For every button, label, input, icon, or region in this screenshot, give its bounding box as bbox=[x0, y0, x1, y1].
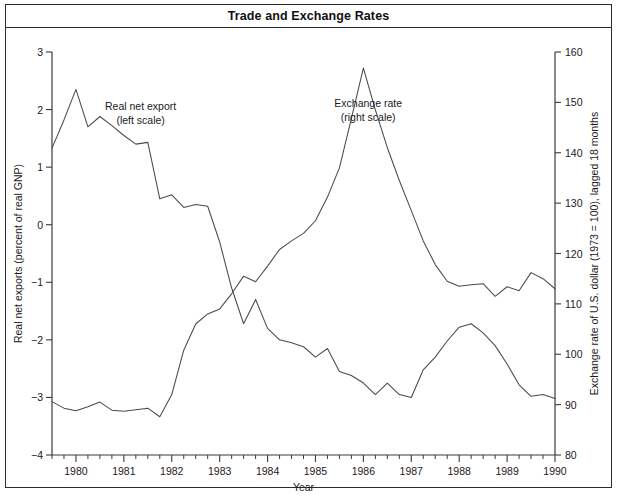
x-tick-label: 1983 bbox=[208, 465, 232, 477]
annotation-real-net-export-line1: Real net export bbox=[105, 100, 176, 112]
x-tick-label: 1982 bbox=[160, 465, 184, 477]
y-tick-label-left: −1 bbox=[31, 276, 43, 288]
x-tick-label: 1990 bbox=[543, 465, 567, 477]
y-tick-label-right: 100 bbox=[565, 348, 583, 360]
x-tick-label: 1986 bbox=[352, 465, 376, 477]
x-tick-label: 1980 bbox=[64, 465, 88, 477]
y-tick-label-left: 0 bbox=[37, 219, 43, 231]
y-axis-title-right: Exchange rate of U.S. dollar (1973 = 100… bbox=[588, 112, 600, 395]
series-line-real-net-export bbox=[52, 89, 555, 398]
figure-container: Trade and Exchange Rates 3210−1−2−3−4160… bbox=[0, 0, 617, 496]
annotation-real-net-export-line2: (left scale) bbox=[116, 114, 164, 126]
y-tick-label-right: 130 bbox=[565, 197, 583, 209]
y-axis-title-left: Real net exports (percent of real GNP) bbox=[12, 164, 24, 343]
y-tick-label-right: 120 bbox=[565, 248, 583, 260]
y-tick-label-right: 160 bbox=[565, 46, 583, 58]
x-tick-label: 1989 bbox=[495, 465, 519, 477]
labels-group: 3210−1−2−3−41601501401301201101009080198… bbox=[12, 46, 600, 493]
x-tick-label: 1985 bbox=[304, 465, 328, 477]
annotation-exchange-rate-line2: (right scale) bbox=[341, 111, 396, 123]
y-tick-label-left: −4 bbox=[31, 449, 43, 461]
annotation-exchange-rate-line1: Exchange rate bbox=[334, 97, 402, 109]
y-tick-label-left: 1 bbox=[37, 161, 43, 173]
y-tick-label-right: 140 bbox=[565, 147, 583, 159]
y-tick-label-left: −2 bbox=[31, 334, 43, 346]
chart-canvas: 3210−1−2−3−41601501401301201101009080198… bbox=[0, 0, 617, 496]
y-tick-label-right: 90 bbox=[565, 399, 577, 411]
y-tick-label-left: 2 bbox=[37, 104, 43, 116]
x-tick-label: 1987 bbox=[400, 465, 424, 477]
y-tick-label-right: 150 bbox=[565, 96, 583, 108]
y-tick-label-left: 3 bbox=[37, 46, 43, 58]
y-tick-label-right: 80 bbox=[565, 449, 577, 461]
y-tick-label-right: 110 bbox=[565, 298, 582, 310]
x-tick-label: 1988 bbox=[448, 465, 472, 477]
y-tick-label-left: −3 bbox=[31, 391, 43, 403]
x-axis-title: Year bbox=[293, 481, 315, 493]
x-tick-label: 1981 bbox=[112, 465, 136, 477]
x-tick-label: 1984 bbox=[256, 465, 280, 477]
